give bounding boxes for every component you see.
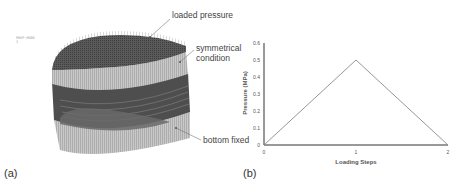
pressure-line (264, 60, 448, 145)
y-tick-0: 0 (252, 142, 260, 148)
x-tick-2: 2 (444, 149, 452, 155)
y-tick-0.1: 0.1 (252, 125, 260, 131)
y-axis-title: Pressure (MPa) (242, 63, 248, 123)
y-tick-0.2: 0.2 (252, 108, 260, 114)
y-tick-0.3: 0.3 (252, 91, 260, 97)
panel-label-b: (b) (243, 167, 256, 179)
x-tick-1: 1 (352, 149, 360, 155)
y-tick-0.6: 0.6 (252, 40, 260, 46)
x-axis-title: Loading Steps (326, 159, 386, 165)
pressure-chart (0, 0, 465, 188)
y-tick-0.5: 0.5 (252, 57, 260, 63)
x-tick-0: 0 (260, 149, 268, 155)
y-tick-0.4: 0.4 (252, 74, 260, 80)
